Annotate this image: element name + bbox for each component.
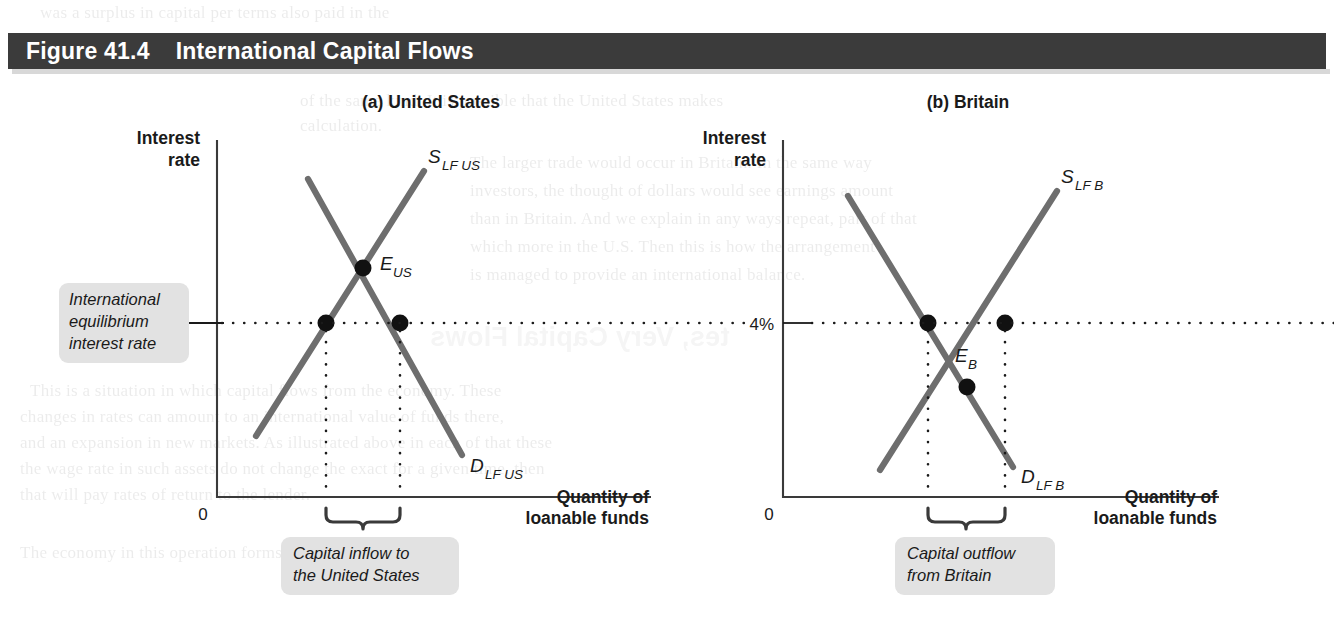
y-axis-label-britain-line2: rate — [734, 150, 766, 170]
demand-label-main-britain: D — [1021, 466, 1035, 487]
capital-inflow-callout-line1-us: Capital inflow to — [293, 544, 409, 562]
demand-curve-label-britain: D LF B — [1021, 466, 1064, 493]
x-axis-label-britain-line1: Quantity of — [1125, 487, 1218, 507]
x-axis-label-us-line1: Quantity of — [557, 487, 650, 507]
supply-label-main-britain: S — [1061, 166, 1074, 187]
supply-curve-us — [256, 171, 424, 436]
panel-britain: (b) Britain Interest rate Quantity of lo… — [703, 92, 1219, 595]
panel-title-us: (a) United States — [362, 92, 500, 112]
international-equilibrium-line2: equilibrium — [69, 312, 149, 330]
y-axis-label-britain-line1: Interest — [703, 128, 766, 148]
supply-label-sub-britain: LF B — [1075, 178, 1103, 193]
demand-curve-britain — [848, 196, 1013, 467]
origin-label-britain: 0 — [764, 505, 773, 524]
supply-curve-label-us: S LF US — [428, 146, 480, 173]
capital-outflow-callout-line1-britain: Capital outflow — [907, 544, 1016, 562]
world-rate-tick-label: 4% — [749, 315, 774, 334]
demand-label-sub-britain: LF B — [1036, 478, 1064, 493]
axes-us — [217, 140, 651, 497]
capital-inflow-brace-us — [326, 508, 400, 529]
y-axis-label-us-line1: Interest — [137, 128, 200, 148]
x-axis-label-britain-line2: loanable funds — [1094, 508, 1218, 528]
equilibrium-point-us — [355, 260, 372, 277]
supply-curve-label-britain: S LF B — [1061, 166, 1103, 193]
demand-curve-label-us: D LF US — [470, 455, 523, 482]
panel-title-britain: (b) Britain — [927, 92, 1010, 112]
demand-label-sub-us: LF US — [485, 467, 523, 482]
equilibrium-label-britain: E B — [955, 345, 977, 372]
capital-inflow-callout-line2-us: the United States — [293, 566, 420, 584]
international-capital-flows-figure: (a) United States Interest rate Quantity… — [0, 0, 1334, 623]
capital-outflow-callout-britain: Capital outflow from Britain — [895, 537, 1055, 595]
panel-united-states: (a) United States Interest rate Quantity… — [137, 92, 651, 595]
international-equilibrium-callout: International equilibrium interest rate — [59, 283, 189, 363]
capital-outflow-callout-line2-britain: from Britain — [907, 566, 991, 584]
international-equilibrium-line1: International — [69, 290, 161, 308]
capital-inflow-callout-us: Capital inflow to the United States — [281, 537, 459, 595]
demand-label-main-us: D — [470, 455, 484, 476]
eq-label-main-britain: E — [955, 345, 968, 366]
supply-label-main-us: S — [428, 146, 441, 167]
equilibrium-label-us: E US — [380, 253, 412, 280]
x-axis-label-us-line2: loanable funds — [526, 508, 650, 528]
eq-label-sub-us: US — [393, 265, 412, 280]
capital-outflow-brace-britain — [928, 508, 1005, 529]
equilibrium-point-britain — [959, 379, 976, 396]
eq-label-sub-britain: B — [968, 357, 977, 372]
eq-label-main-us: E — [380, 253, 393, 274]
supply-label-sub-us: LF US — [442, 158, 480, 173]
y-axis-label-us-line2: rate — [168, 150, 200, 170]
international-equilibrium-line3: interest rate — [69, 334, 156, 352]
origin-label-us: 0 — [198, 505, 207, 524]
supply-curve-britain — [880, 191, 1057, 470]
